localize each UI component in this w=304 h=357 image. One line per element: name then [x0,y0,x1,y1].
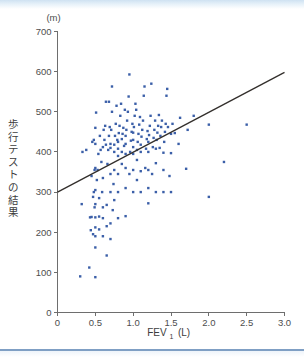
data-point [153,129,155,131]
data-point [111,85,113,87]
data-point [162,191,164,193]
data-point [79,275,81,277]
data-point [147,151,149,153]
data-point [155,162,157,164]
data-point [124,187,126,189]
data-point [85,149,87,151]
data-point [118,125,120,127]
data-point [156,131,158,133]
data-point [185,168,187,170]
data-point [101,191,103,193]
data-point [135,109,137,111]
bottom-gradient [0,351,304,357]
data-point [122,127,124,129]
data-point [124,135,126,137]
data-point [94,189,96,191]
data-point [117,173,119,175]
data-point [193,115,195,117]
data-point [147,187,149,189]
data-point [162,152,164,154]
data-point [160,126,162,128]
y-axis-title-char: の [8,181,18,193]
data-point [128,73,130,75]
data-point [140,191,142,193]
data-point [124,153,126,155]
data-point [158,114,160,116]
data-point [144,167,146,169]
data-point [125,129,127,131]
data-point [109,143,111,145]
data-point [145,148,147,150]
data-point [99,135,101,137]
data-point [132,146,134,148]
x-axis-title-unit: (L) [178,327,190,338]
y-axis-title-char: ト [8,168,18,180]
data-point [113,144,115,146]
y-axis-title-char: 果 [8,206,19,218]
data-point [223,161,225,163]
data-point [143,85,145,87]
data-point [150,82,152,84]
data-point [171,123,173,125]
data-point [117,148,119,150]
y-axis-title-char: テ [8,143,18,155]
data-point [157,125,159,127]
data-point [107,149,109,151]
data-point [88,266,90,268]
data-point [143,95,145,97]
data-point [105,225,107,227]
data-point [109,173,111,175]
data-point [109,222,111,224]
x-tick-label: 0 [55,317,60,328]
y-tick-label: 500 [36,106,52,117]
data-point [102,129,104,131]
x-tick-label: 3.0 [278,317,291,328]
regression-line [58,72,285,192]
data-point [151,173,153,175]
plot-svg: 010020030040050060070000.51.01.52.02.53.… [0,0,304,357]
data-point [104,125,106,127]
data-point [117,155,119,157]
data-point [147,202,149,204]
data-point [179,117,181,119]
data-point [121,133,123,135]
data-point [109,147,111,149]
data-point [142,119,144,121]
data-point [133,115,135,117]
scatter-chart: 010020030040050060070000.51.01.52.02.53.… [0,0,304,357]
data-point [100,161,102,163]
y-axis-title-char: ス [8,156,18,168]
data-point [170,152,172,154]
data-point [132,191,134,193]
data-point [149,115,151,117]
data-point [165,95,167,97]
data-point [117,141,119,143]
data-point [93,139,95,141]
data-point [119,115,121,117]
data-point [168,175,170,177]
data-point [152,146,154,148]
y-tick-label: 200 [36,227,52,238]
data-point [124,215,126,217]
data-point [158,147,160,149]
data-point [94,226,96,228]
data-point [98,215,100,217]
data-point [147,141,149,143]
data-point [113,169,115,171]
data-point [94,235,96,237]
data-point [136,159,138,161]
data-point [90,229,92,231]
x-tick-label: 2.0 [202,317,215,328]
data-point [108,101,110,103]
y-tick-label: 0 [46,307,51,318]
data-point [109,126,111,128]
data-point [137,133,139,135]
x-tick-label: 0.5 [89,317,102,328]
data-point [115,123,117,125]
data-point [155,191,157,193]
data-point [137,141,139,143]
data-point [102,217,104,219]
x-axis-title-main: FEV [147,327,167,338]
data-point [147,169,149,171]
data-point [94,143,96,145]
